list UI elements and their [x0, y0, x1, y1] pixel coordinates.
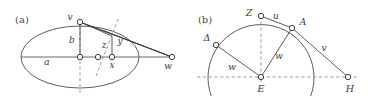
length-label-u: u [273, 11, 279, 21]
length-label-w-left: w [228, 62, 236, 72]
length-label-a: a [44, 57, 49, 67]
point-E[interactable] [258, 74, 263, 79]
segment-normal-line [96, 17, 119, 76]
point-label-v: v [67, 12, 72, 22]
point-v[interactable] [77, 19, 82, 24]
point-label-A: A [299, 16, 307, 27]
point-label-H: H [345, 83, 355, 94]
point-H[interactable] [345, 74, 350, 79]
point-label-x: x [109, 60, 114, 70]
panel-a-caption: (a) [15, 14, 29, 25]
segment-upper-chord-to-w [102, 30, 172, 57]
point-Delta[interactable] [213, 42, 218, 47]
point-A[interactable] [289, 25, 294, 30]
figure-root: (a) [0, 0, 368, 99]
point-label-Z: Z [245, 7, 253, 18]
segment-E-to-Delta [216, 45, 261, 77]
panel-b-caption: (b) [198, 14, 212, 25]
point-label-E: E [257, 83, 265, 94]
point-w[interactable] [169, 54, 174, 59]
point-Z[interactable] [258, 13, 263, 18]
length-label-b: b [69, 35, 75, 45]
length-label-y: y [116, 36, 123, 46]
point-label-w: w [164, 61, 172, 71]
panel-b: (b) Z A Δ E H [197, 7, 357, 97]
point-label-z: z [101, 40, 107, 50]
point-z[interactable] [95, 54, 100, 59]
length-label-w-right: w [275, 51, 283, 61]
point-label-Delta: Δ [203, 32, 211, 43]
length-label-v: v [321, 43, 326, 53]
segment-A-to-H [292, 28, 348, 77]
point-center[interactable] [77, 54, 82, 59]
geometry-figure: (a) [0, 0, 368, 99]
panel-a: (a) [15, 12, 175, 95]
